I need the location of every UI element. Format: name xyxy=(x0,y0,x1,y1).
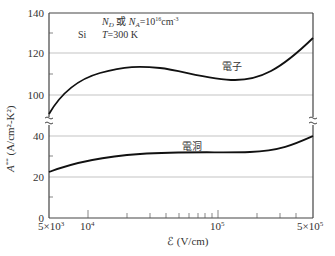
electron-curve xyxy=(49,38,313,114)
chart: 140 120 100 40 20 0 5×103 104 105 5×105 … xyxy=(0,0,335,256)
x-tick-5e5: 5×105 xyxy=(297,220,324,232)
x-tick-labels: 5×103 104 105 5×105 xyxy=(38,220,324,232)
y-tick-100: 100 xyxy=(28,89,45,101)
plot-frame xyxy=(49,13,313,218)
x-tick-1e5: 105 xyxy=(210,220,225,232)
y-tick-120: 120 xyxy=(28,47,45,59)
temperature-annotation: T=300 K xyxy=(102,29,139,40)
hole-label: 電洞 xyxy=(182,141,202,152)
material-label: Si xyxy=(78,29,87,40)
y-axis-label: A** (A/cm²-K²) xyxy=(4,105,17,173)
y-tick-40: 40 xyxy=(33,130,45,142)
doping-annotation: ND 或 NA=1016cm-3 xyxy=(101,16,179,29)
x-tick-1e4: 104 xyxy=(80,220,95,232)
y-tick-labels: 140 120 100 40 20 0 xyxy=(28,7,45,224)
x-tick-5e3: 5×103 xyxy=(38,220,65,232)
y-tick-140: 140 xyxy=(28,7,45,19)
x-axis-label: ℰ (V/cm) xyxy=(167,235,209,248)
axis-break-icon xyxy=(45,117,317,124)
electron-label: 電子 xyxy=(222,61,242,72)
x-ticks xyxy=(88,210,296,218)
hole-curve xyxy=(49,136,313,172)
y-tick-20: 20 xyxy=(33,171,45,183)
